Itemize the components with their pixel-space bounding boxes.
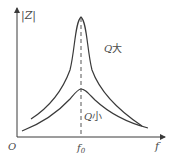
high-q-label: Q大: [104, 42, 122, 54]
low-q-curve: [22, 89, 148, 131]
high-q-curve: [31, 17, 142, 126]
origin-label: O: [8, 141, 16, 152]
resonance-diagram: |Z| Q大 Q小 O f0 f: [0, 0, 170, 155]
f0-tick-label: f0: [76, 142, 86, 155]
x-axis-label: f: [154, 140, 161, 153]
low-q-label: Q小: [84, 111, 102, 122]
y-axis-label: |Z|: [21, 9, 36, 23]
